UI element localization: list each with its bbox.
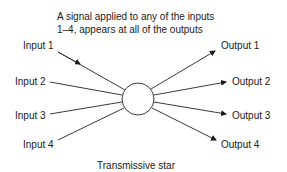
diagram-caption: Transmissive star — [97, 160, 175, 171]
output-4-label: Output 4 — [221, 139, 259, 150]
output-2-line — [154, 82, 226, 95]
input-4-line — [58, 108, 124, 140]
input-lines — [50, 52, 125, 140]
annotation-line-2: 1–4, appears at all of the outputs — [57, 24, 203, 35]
input-2-label: Input 2 — [15, 76, 46, 87]
output-3-line — [154, 102, 226, 114]
annotation-line-1: A signal applied to any of the inputs — [57, 11, 214, 22]
output-1-line — [151, 51, 215, 89]
input-1-arrow — [58, 52, 80, 64]
output-2-label: Output 2 — [232, 76, 270, 87]
output-3-label: Output 3 — [232, 110, 270, 121]
star-coupler-circle — [122, 83, 154, 115]
input-3-line — [50, 102, 122, 114]
input-2-line — [50, 82, 122, 95]
output-lines — [151, 51, 226, 140]
output-4-line — [152, 108, 216, 140]
input-1-label: Input 1 — [23, 40, 54, 51]
output-1-label: Output 1 — [221, 40, 259, 51]
input-4-label: Input 4 — [23, 139, 54, 150]
input-3-label: Input 3 — [15, 110, 46, 121]
